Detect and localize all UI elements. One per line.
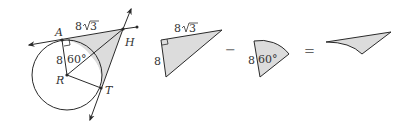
operator-equals: = (304, 43, 315, 58)
figure-result-region (326, 32, 391, 54)
tangent-line-HT-up (123, 9, 131, 29)
result-region (326, 32, 391, 54)
point-H (121, 27, 124, 30)
label-sector-radius: 8 (248, 54, 255, 67)
label-angle: 60° (67, 53, 87, 66)
label-tangent-coef: 8 (75, 20, 82, 33)
radius-RT (67, 75, 101, 88)
geometry-diagram: A H R T 8 3 8 60° 8 3 8 − 8 60° = (0, 0, 411, 133)
figure-circle-tangents: A H R T 8 3 8 60° (29, 9, 139, 120)
point-R (65, 73, 68, 76)
label-long-leg-sqrt: 3 (189, 22, 196, 35)
triangle (161, 30, 222, 77)
figure-right-triangle: 8 3 8 (154, 22, 222, 77)
label-sector-angle: 60° (258, 53, 278, 66)
label-T: T (105, 84, 114, 97)
label-R: R (55, 74, 64, 87)
label-short-leg: 8 (154, 55, 161, 68)
label-long-leg-coef: 8 (174, 22, 181, 35)
tangent-line-extension (123, 27, 137, 29)
operator-minus: − (225, 42, 236, 57)
label-tangent-sqrt: 3 (90, 20, 97, 33)
label-H: H (124, 36, 135, 49)
label-A: A (54, 26, 63, 39)
figure-sector: 8 60° (248, 40, 289, 77)
tangent-end-dot (136, 26, 139, 29)
point-T (99, 86, 102, 89)
label-radius: 8 (56, 54, 63, 67)
